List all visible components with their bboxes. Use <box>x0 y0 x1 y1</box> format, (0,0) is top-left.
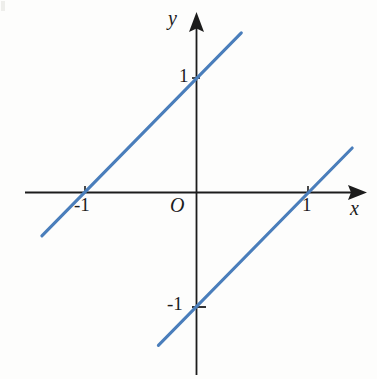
origin-label: O <box>170 195 184 215</box>
graph-figure: y x O 1 -1 -1 1 <box>0 0 377 379</box>
y-tick-label-positive-one: 1 <box>179 66 189 85</box>
line-y-equals-x-minus-1 <box>158 148 352 345</box>
line-y-equals-x-plus-1 <box>42 33 241 236</box>
x-axis-label: x <box>350 198 359 218</box>
x-tick-label-positive-one: 1 <box>302 195 312 214</box>
y-axis-label: y <box>168 8 177 28</box>
coordinate-plot <box>0 0 377 379</box>
x-tick-label-negative-one: -1 <box>74 195 90 214</box>
y-tick-label-negative-one: -1 <box>167 294 183 313</box>
